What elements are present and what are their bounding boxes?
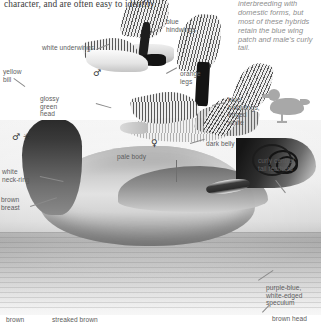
male-symbol-flying: ♂ xyxy=(93,69,101,78)
label-glossy-green-head: glossy green head xyxy=(40,95,59,118)
flying-female-head xyxy=(120,122,148,134)
label-pale-body: pale body xyxy=(117,153,146,161)
duck-silhouette xyxy=(262,88,308,124)
male-symbol-main: ♂ ✳ xyxy=(12,133,30,142)
duck-silhouette-bill xyxy=(262,94,271,98)
label-streaked-brown: streaked brown xyxy=(52,316,98,324)
label-white-underwings: white underwings xyxy=(42,44,94,52)
drake-neck xyxy=(22,120,82,215)
duck-silhouette-tail xyxy=(300,99,310,105)
duck-silhouette-foot xyxy=(277,121,287,123)
label-blue-hindwings: blue hindwings xyxy=(166,18,196,33)
label-purple-blue-speculum: purple-blue, white-edged speculum xyxy=(266,284,302,307)
label-brown-head: brown head xyxy=(272,315,307,323)
leader-glossy-green-head xyxy=(96,103,112,108)
label-white-neck-ring: white neck-ring xyxy=(2,168,30,183)
label-curly-central-tail-feathers: curly central tail feathers xyxy=(258,157,294,172)
label-dark-belly: dark belly xyxy=(206,140,235,148)
label-yellow-bill: yellow bill xyxy=(3,68,22,83)
body-paragraph: character, and are often easy to identif… xyxy=(4,0,164,11)
label-orange-legs: orange legs xyxy=(180,70,201,85)
field-guide-page: character, and are often easy to identif… xyxy=(0,0,321,326)
female-symbol-flying: ♀ xyxy=(151,139,158,148)
label-brown-breast: brown breast xyxy=(1,196,20,211)
leader-orange-legs xyxy=(166,67,177,74)
label-blue-hindwings-edged-white: blue hindwings, edged white xyxy=(228,96,260,126)
side-note: vary variable owing to interbreeding wit… xyxy=(238,0,318,53)
leader-pale-body xyxy=(176,160,177,182)
label-brown: brown xyxy=(6,316,24,324)
